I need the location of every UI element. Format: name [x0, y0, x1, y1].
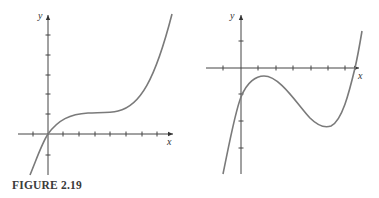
right-curve — [223, 31, 362, 174]
left-curve — [30, 14, 172, 175]
right-y-label: y — [229, 10, 235, 21]
left-y-label: y — [37, 10, 43, 21]
right-graph: x y — [206, 10, 363, 174]
left-x-label: x — [166, 136, 172, 147]
figure-graphs: x y x y — [0, 0, 379, 198]
left-graph: x y — [18, 10, 173, 175]
figure-caption: FIGURE 2.19 — [12, 179, 82, 191]
right-x-label: x — [357, 70, 363, 81]
